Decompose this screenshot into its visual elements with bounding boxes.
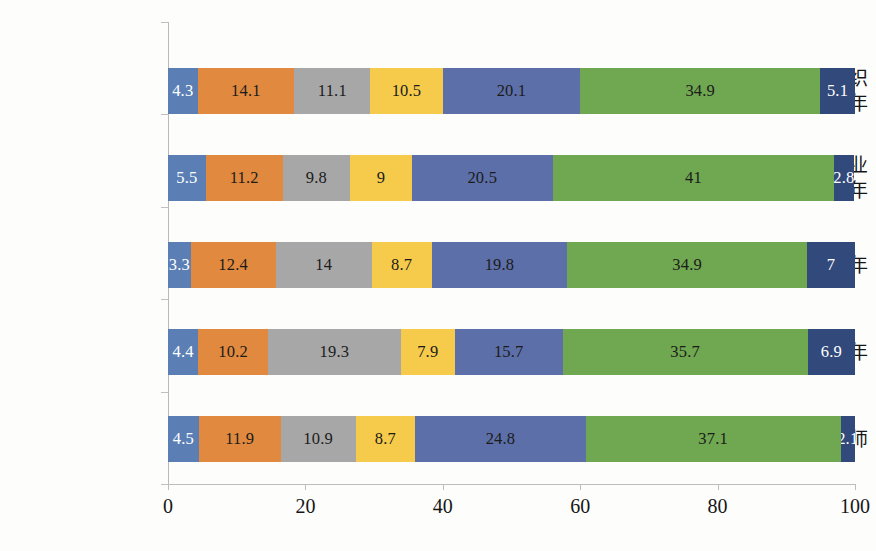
bar-segment: 12.4: [191, 242, 276, 288]
bar-segment-value: 4.4: [172, 344, 193, 361]
bar-segment: 35.7: [563, 329, 808, 375]
x-axis-tick: [718, 484, 719, 490]
y-axis-tick: [161, 114, 168, 115]
bar-segment-value: 12.4: [218, 257, 248, 274]
x-axis-tick-label: 60: [570, 494, 590, 518]
bar-segment: 34.9: [567, 242, 807, 288]
bar-segment-value: 20.1: [497, 83, 527, 100]
bar-segment: 2.1: [841, 416, 855, 462]
bar-segment-value: 5.5: [176, 170, 197, 187]
bar-segment: 8.7: [372, 242, 432, 288]
y-axis-tick: [161, 22, 168, 23]
bar-segment: 6.9: [808, 329, 855, 375]
x-axis-tick: [168, 484, 169, 490]
bar-segment-value: 34.9: [672, 257, 702, 274]
x-axis-tick-label: 80: [708, 494, 728, 518]
bar-segment-value: 41: [685, 170, 702, 187]
bar-segment: 15.7: [455, 329, 563, 375]
bar-segment: 11.2: [206, 155, 283, 201]
bar-segment: 7.9: [401, 329, 455, 375]
x-axis-tick: [580, 484, 581, 490]
bar-segment: 20.1: [443, 68, 581, 114]
bar-segment-value: 9: [377, 170, 385, 187]
x-axis-tick-label: 0: [163, 494, 173, 518]
bar-segment-value: 24.8: [486, 431, 516, 448]
bar-row: 5.511.29.8920.5412.8: [168, 155, 855, 201]
bar-segment: 20.5: [412, 155, 553, 201]
bar-segment: 11.1: [294, 68, 370, 114]
bar-segment: 3.3: [168, 242, 191, 288]
bar-segment-value: 9.8: [306, 170, 327, 187]
bar-segment: 24.8: [415, 416, 585, 462]
bar-segment: 10.5: [370, 68, 442, 114]
bar-segment-value: 20.5: [467, 170, 497, 187]
bar-segment-value: 11.2: [230, 170, 259, 187]
bar-segment: 41: [553, 155, 835, 201]
x-axis-tick: [855, 484, 856, 490]
bar-segment: 14: [276, 242, 372, 288]
bar-segment: 34.9: [580, 68, 820, 114]
bar-segment-value: 2.1: [841, 431, 855, 448]
bar-segment: 8.7: [356, 416, 416, 462]
bar-segment-value: 15.7: [494, 344, 524, 361]
bar-segment-value: 7: [827, 257, 835, 274]
bar-segment-value: 34.9: [685, 83, 715, 100]
bar-segment-value: 10.5: [392, 83, 422, 100]
bar-segment: 10.9: [281, 416, 356, 462]
bar-segment-value: 19.3: [320, 344, 350, 361]
stacked-bar-chart: 社会组织从业青年行政事业单位青年企业从业青年农业青年青年教师 4.314.111…: [0, 0, 876, 551]
bar-segment-value: 3.3: [169, 257, 190, 274]
bar-segment-value: 11.1: [318, 83, 347, 100]
y-axis-tick: [161, 392, 168, 393]
y-axis-tick: [161, 299, 168, 300]
bar-segment: 14.1: [198, 68, 295, 114]
bar-segment-value: 8.7: [391, 257, 412, 274]
x-axis-tick: [305, 484, 306, 490]
bar-row: 3.312.4148.719.834.97: [168, 242, 855, 288]
bar-segment: 4.3: [168, 68, 198, 114]
bar-segment-value: 10.9: [303, 431, 333, 448]
x-axis-line: [168, 484, 856, 485]
bar-segment-value: 35.7: [670, 344, 700, 361]
x-axis-tick-label: 20: [295, 494, 315, 518]
bar-segment: 11.9: [199, 416, 281, 462]
bar-segment: 2.8: [834, 155, 853, 201]
bar-segment: 5.1: [820, 68, 855, 114]
bar-segment-value: 8.7: [375, 431, 396, 448]
bar-segment: 4.4: [168, 329, 198, 375]
bar-segment: 9: [350, 155, 412, 201]
x-axis-tick: [443, 484, 444, 490]
bar-segment: 19.8: [432, 242, 568, 288]
bar-segment-value: 19.8: [485, 257, 515, 274]
bar-segment-value: 11.9: [225, 431, 254, 448]
bar-segment-value: 6.9: [821, 344, 842, 361]
bar-segment-value: 14.1: [231, 83, 261, 100]
bar-segment: 5.5: [168, 155, 206, 201]
bar-segment-value: 37.1: [698, 431, 728, 448]
bar-segment-value: 4.5: [173, 431, 194, 448]
bar-segment: 37.1: [586, 416, 841, 462]
y-axis-tick: [161, 484, 168, 485]
bar-segment: 10.2: [198, 329, 268, 375]
bar-segment-value: 2.8: [834, 170, 853, 187]
plot-area: 4.314.111.110.520.134.95.15.511.29.8920.…: [168, 22, 855, 484]
bar-segment-value: 10.2: [218, 344, 248, 361]
bar-segment: 9.8: [283, 155, 350, 201]
x-axis-tick-label: 40: [433, 494, 453, 518]
bar-row: 4.511.910.98.724.837.12.1: [168, 416, 855, 462]
bar-segment: 19.3: [268, 329, 400, 375]
x-axis-tick-label: 100: [840, 494, 870, 518]
bar-segment: 7: [807, 242, 855, 288]
bar-segment-value: 4.3: [172, 83, 193, 100]
y-axis-tick: [161, 207, 168, 208]
bar-row: 4.410.219.37.915.735.76.9: [168, 329, 855, 375]
bar-row: 4.314.111.110.520.134.95.1: [168, 68, 855, 114]
bar-segment: 4.5: [168, 416, 199, 462]
bar-segment-value: 5.1: [827, 83, 848, 100]
bar-segment-value: 14: [315, 257, 332, 274]
bar-segment-value: 7.9: [417, 344, 438, 361]
